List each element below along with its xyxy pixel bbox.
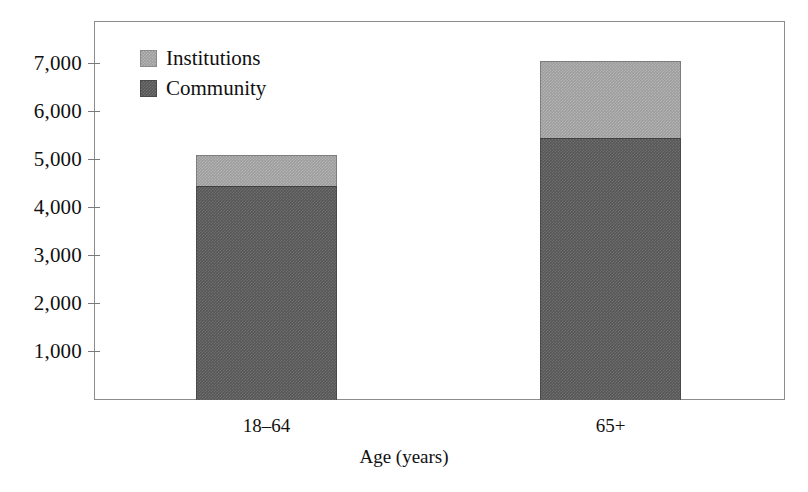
y-axis-tick-2000 xyxy=(88,303,100,304)
legend-label-institutions: Institutions xyxy=(166,48,261,69)
y-axis-label-4000: 4,000 xyxy=(34,197,82,218)
legend-item-institutions: Institutions xyxy=(140,43,266,73)
y-axis-tick-1000 xyxy=(88,351,100,352)
bar-65-plus xyxy=(540,61,681,400)
x-axis-title: Age (years) xyxy=(0,447,808,466)
bar-segment-institutions-18-64 xyxy=(196,155,337,186)
bar-segment-institutions-65-plus xyxy=(540,61,681,138)
y-axis-label-6000: 6,000 xyxy=(34,101,82,122)
light-gray-swatch-icon xyxy=(140,50,157,67)
y-axis-label-3000: 3,000 xyxy=(34,245,82,266)
y-axis-tick-6000 xyxy=(88,111,100,112)
y-axis-label-7000: 7,000 xyxy=(34,53,82,74)
y-axis-tick-7000 xyxy=(88,63,100,64)
y-axis-tick-3000 xyxy=(88,255,100,256)
legend-label-community: Community xyxy=(166,78,266,99)
y-axis-tick-5000 xyxy=(88,159,100,160)
legend-item-community: Community xyxy=(140,73,266,103)
dark-gray-swatch-icon xyxy=(140,80,157,97)
y-axis-label-5000: 5,000 xyxy=(34,149,82,170)
y-axis-label-1000: 1,000 xyxy=(34,341,82,362)
y-axis-tick-4000 xyxy=(88,207,100,208)
bar-segment-community-18-64 xyxy=(196,186,337,400)
stacked-bar-chart: 7,000 6,000 5,000 4,000 3,000 2,000 1,00… xyxy=(0,0,808,492)
chart-legend: Institutions Community xyxy=(140,43,266,103)
x-axis-label-18-64: 18–64 xyxy=(196,416,337,435)
y-axis-label-2000: 2,000 xyxy=(34,293,82,314)
bar-18-64 xyxy=(196,155,337,400)
x-axis-label-65-plus: 65+ xyxy=(540,416,681,435)
bar-segment-community-65-plus xyxy=(540,138,681,400)
